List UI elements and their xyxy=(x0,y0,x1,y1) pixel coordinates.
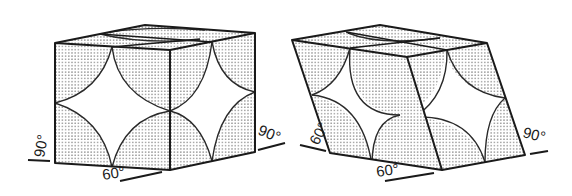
left-ref-line-60 xyxy=(120,172,162,181)
right-ref-line-60-left xyxy=(300,145,326,151)
left-unit-cell: 90° 60° 90° xyxy=(28,15,285,183)
sphere-packing-diagram: 90° 60° 90° xyxy=(0,0,572,196)
left-ref-line-90 xyxy=(28,160,50,161)
left-front-face xyxy=(50,40,175,175)
left-angle-label-right: 90° xyxy=(256,121,283,145)
right-unit-cell: 60° 60° 90° xyxy=(285,15,548,181)
left-angle-label-bottom: 60° xyxy=(101,163,126,183)
right-ref-line-90 xyxy=(530,151,548,154)
right-angle-label-bottom: 60° xyxy=(375,160,400,180)
left-angle-label-left: 90° xyxy=(30,133,51,158)
right-angle-label-right: 90° xyxy=(521,123,547,145)
left-right-face xyxy=(165,28,260,178)
right-ref-line-90 xyxy=(258,143,285,150)
